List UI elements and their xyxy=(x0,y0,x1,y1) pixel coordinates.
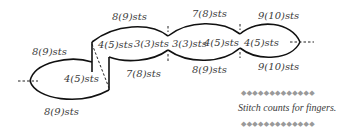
label-right-bottom: 9(10)sts xyxy=(258,61,299,72)
label-left-bottom: 8(9)sts xyxy=(44,106,79,117)
caption-text: Stitch counts for fingers. xyxy=(238,102,336,113)
label-left-inner: 4(5)sts xyxy=(63,73,99,84)
caption-block: ◆◆◆◆◆◆◆◆◆◆◆◆◆ Stitch counts for fingers.… xyxy=(238,89,336,128)
label-right-top: 9(10)sts xyxy=(258,10,299,21)
label-mid-inner-right: 3(3)sts xyxy=(134,38,169,49)
label-center-inner-left: 3(3)sts xyxy=(172,38,207,49)
label-mid-bottom: 7(8)sts xyxy=(126,68,161,79)
label-center-top: 7(8)sts xyxy=(192,8,227,19)
label-center-inner-right: 4(5)sts xyxy=(203,37,239,48)
label-mid-inner-left: 4(5)sts xyxy=(97,39,133,50)
finger-stitch-diagram: 8(9)sts 4(5)sts 8(9)sts 8(9)sts 4(5)sts … xyxy=(0,0,352,136)
label-mid-top: 8(9)sts xyxy=(112,11,147,22)
label-right-inner: 4(5)sts xyxy=(243,37,279,48)
label-center-bottom: 8(9)sts xyxy=(192,64,227,75)
ornament-border-bottom: ◆◆◆◆◆◆◆◆◆◆◆◆◆ xyxy=(241,120,315,128)
label-left-top: 8(9)sts xyxy=(32,46,67,57)
ornament-border-top: ◆◆◆◆◆◆◆◆◆◆◆◆◆ xyxy=(241,89,315,97)
